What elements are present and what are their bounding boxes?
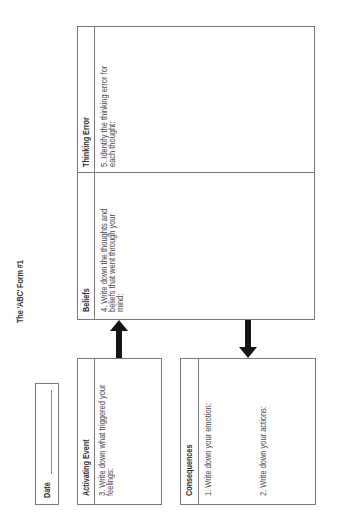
actions-writing-area[interactable]	[271, 359, 315, 504]
arrow-right-icon	[108, 320, 130, 358]
date-box: Date	[35, 383, 59, 505]
activating-event-prompt: 3. Write down what triggered your feelin…	[98, 381, 114, 496]
thinking-error-prompt: 5. Identify the thinking error for each …	[100, 50, 116, 167]
beliefs-writing-area[interactable]	[126, 173, 314, 319]
emotion-writing-area[interactable]	[215, 359, 257, 504]
consequences-actions-prompt: 2. Write down your actions:	[259, 375, 267, 497]
arrow-left-icon	[237, 320, 259, 358]
thinking-error-heading: Thinking Error	[81, 117, 91, 167]
beliefs-thinking-box: Beliefs 4. Write down the thoughts and b…	[77, 26, 315, 320]
beliefs-prompt: 4. Write down the thoughts and beliefs t…	[100, 195, 124, 312]
consequences-heading: Consequences	[184, 445, 194, 496]
consequences-box: Consequences 1. Write down your emotion:…	[180, 358, 316, 505]
activating-event-heading: Activating Event	[81, 439, 91, 496]
beliefs-heading: Beliefs	[81, 288, 91, 312]
date-input-line[interactable]	[51, 390, 52, 474]
activating-event-writing-area[interactable]	[116, 359, 161, 504]
header-divider	[94, 359, 95, 504]
form-title: The 'ABC' Form #1	[15, 260, 25, 323]
abc-form-page: The 'ABC' Form #1 Date Activating Event …	[0, 0, 337, 528]
header-divider	[94, 27, 95, 319]
activating-event-box: Activating Event 3. Write down what trig…	[77, 358, 162, 505]
header-divider	[198, 359, 199, 504]
thinking-error-writing-area[interactable]	[118, 27, 314, 172]
date-label: Date	[42, 482, 52, 498]
consequences-emotion-prompt: 1. Write down your emotion:	[204, 375, 212, 497]
